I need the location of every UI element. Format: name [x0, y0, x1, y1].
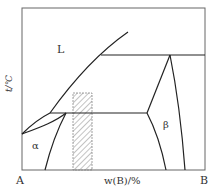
beta-left-upper-boundary	[147, 55, 170, 113]
x-axis-label: w(B)/%	[104, 175, 141, 186]
alpha-liquidus	[22, 113, 50, 134]
component-b-label: B	[200, 174, 208, 187]
alpha-solvus	[45, 113, 66, 170]
beta-right-boundary	[170, 55, 185, 170]
component-a-label: A	[16, 174, 24, 187]
region-label-alpha: α	[32, 140, 39, 151]
phase-diagram	[0, 0, 217, 193]
region-label-liquid: L	[57, 43, 64, 56]
region-label-beta: β	[163, 119, 169, 130]
plot-frame	[22, 8, 205, 170]
hatched-composition-band	[73, 93, 92, 170]
y-axis-label: t/℃	[4, 75, 14, 92]
